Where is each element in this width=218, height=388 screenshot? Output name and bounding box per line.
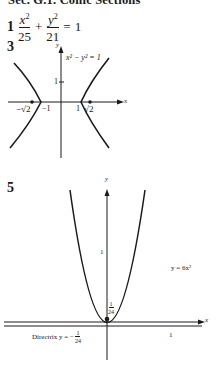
focus-left [30,100,34,104]
right-branch [81,58,109,148]
fraction-x-term: x2 25 [18,10,31,43]
focus-label: 1 24 [108,301,114,315]
directrix-label: Directrix y = − 1 24 [32,330,81,344]
focus-numerator: 1 [109,301,114,308]
x-tick-sqrt2: √2 [84,104,93,114]
x-axis-arrow-icon [117,100,124,105]
directrix-denominator: 24 [75,337,81,344]
rhs-value: 1 [75,19,82,35]
section-title: Sec. G.1. Conic Sections [8,0,141,8]
y-tick-label: 1 [54,77,58,86]
directrix-numerator: 1 [75,330,80,337]
equals-sign: = [63,19,70,35]
fraction-y-term: y2 21 [46,10,59,43]
y-axis-label: y [56,41,59,49]
directrix-text: Directrix y = − [32,333,74,341]
problem-1: 1 x2 25 + y2 21 = 1 [7,10,81,43]
y-axis-label: y [105,175,108,183]
focus-point [105,317,110,322]
x-axis-arrow-icon [198,320,205,325]
x-tick-neg-sqrt2: −√2 [16,104,31,114]
focus-denominator: 24 [108,308,114,315]
plus-operator: + [35,19,42,35]
x-tick-neg-1: −1 [42,104,51,113]
exponent: 2 [54,12,58,21]
x-tick-label: 1 [169,331,173,339]
y-tick-label: 1 [100,248,104,256]
y-axis-arrow-icon [59,46,64,53]
x-tick-1: 1 [76,104,80,113]
x-axis-label: x [205,316,208,324]
hyperbola-equation-label: x² − y² = 1 [66,53,101,62]
exponent: 2 [25,12,29,21]
parabola-equation-label: y = 6x² [171,264,191,272]
problem-number: 1 [7,19,14,35]
x-axis-label: x [124,97,127,105]
y-axis-arrow-icon [105,189,110,196]
directrix-fraction: 1 24 [75,330,81,344]
